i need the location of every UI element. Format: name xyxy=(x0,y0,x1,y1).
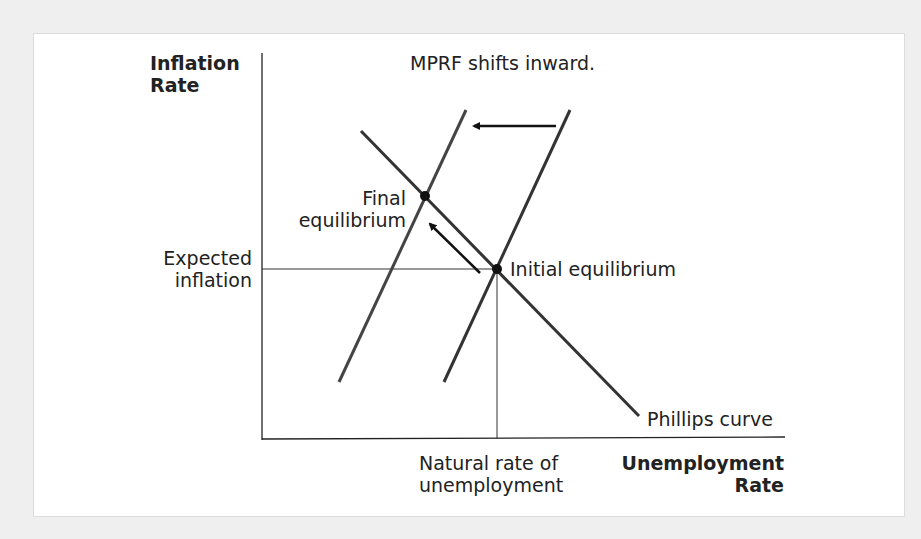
natural-label-line2: unemployment xyxy=(419,474,563,496)
x-axis xyxy=(262,437,785,439)
mprf-initial xyxy=(444,110,570,382)
final-equilibrium-label: Final equilibrium xyxy=(270,187,406,231)
natural-label-line1: Natural rate of xyxy=(419,452,563,474)
x-axis-label-line1: Unemployment xyxy=(600,452,784,474)
chart-title: MPRF shifts inward. xyxy=(410,52,595,74)
y-axis-label-line1: Inflation xyxy=(150,52,250,74)
final-label-line1: Final xyxy=(270,187,406,209)
y-axis-label: Inflation Rate xyxy=(150,52,250,96)
initial-equilibrium-label: Initial equilibrium xyxy=(510,258,676,280)
final-label-line2: equilibrium xyxy=(270,209,406,231)
y-axis-label-line2: Rate xyxy=(150,74,250,96)
natural-rate-label: Natural rate of unemployment xyxy=(419,452,563,496)
expected-inflation-label: Expected inflation xyxy=(130,247,252,291)
x-axis-label-line2: Rate xyxy=(600,474,784,496)
movement-arrow-icon xyxy=(430,224,480,273)
initial-equilibrium-point xyxy=(492,264,502,274)
expected-label-line2: inflation xyxy=(130,269,252,291)
expected-label-line1: Expected xyxy=(130,247,252,269)
final-equilibrium-point xyxy=(420,191,430,201)
x-axis-label: Unemployment Rate xyxy=(600,452,784,496)
mprf-shifted xyxy=(339,110,466,382)
phillips-curve-label: Phillips curve xyxy=(647,408,773,430)
